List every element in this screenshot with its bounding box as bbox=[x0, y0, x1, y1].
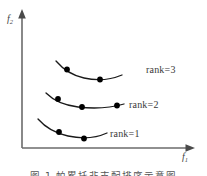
data-point bbox=[81, 136, 87, 142]
data-point bbox=[97, 77, 103, 83]
x-axis bbox=[22, 144, 195, 152]
rank-1-annotation: rank=1 bbox=[110, 128, 140, 139]
y-axis-label: f2 bbox=[7, 14, 13, 25]
data-point bbox=[64, 67, 70, 73]
rank-1-curve bbox=[38, 119, 107, 138]
data-point bbox=[79, 104, 85, 110]
data-point bbox=[55, 96, 61, 102]
figure-caption: 图 1 帕累托非支配排序示意图 bbox=[0, 169, 207, 176]
rank-1-curve-group bbox=[38, 119, 107, 141]
y-axis-arrow-icon bbox=[18, 9, 26, 19]
pareto-rank-figure: f2 f1 rank=3 rank=2 rank=1 图 1 帕累托非支配排序示… bbox=[0, 0, 207, 176]
rank-2-annotation: rank=2 bbox=[129, 99, 159, 110]
y-axis bbox=[18, 9, 26, 148]
x-axis-label-subscript: 1 bbox=[185, 156, 188, 163]
data-point bbox=[114, 103, 120, 109]
x-axis-label: f1 bbox=[182, 152, 188, 163]
y-axis-label-subscript: 2 bbox=[10, 18, 13, 25]
rank-2-curve-group bbox=[46, 93, 124, 110]
rank-3-curve-group bbox=[56, 61, 122, 82]
rank-3-annotation: rank=3 bbox=[146, 64, 176, 75]
data-point bbox=[56, 129, 62, 135]
x-axis-arrow-icon bbox=[186, 144, 196, 152]
plot-canvas bbox=[0, 0, 207, 176]
